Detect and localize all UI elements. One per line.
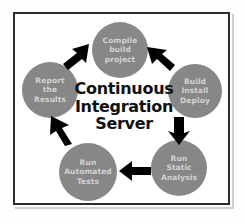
- node-run-automated-tests[interactable]: Run Automated Tests: [59, 143, 117, 201]
- node-tests-label: Run Automated Tests: [62, 158, 114, 187]
- node-compile-label: Compile build project: [101, 36, 140, 65]
- node-compile-build-project[interactable]: Compile build project: [92, 22, 148, 78]
- node-run-static-analysis[interactable]: Run Static Analysis: [151, 140, 207, 196]
- node-static-label: Run Static Analysis: [159, 154, 199, 183]
- ci-cycle-diagram: Compile build project Build Install Depl…: [0, 0, 245, 224]
